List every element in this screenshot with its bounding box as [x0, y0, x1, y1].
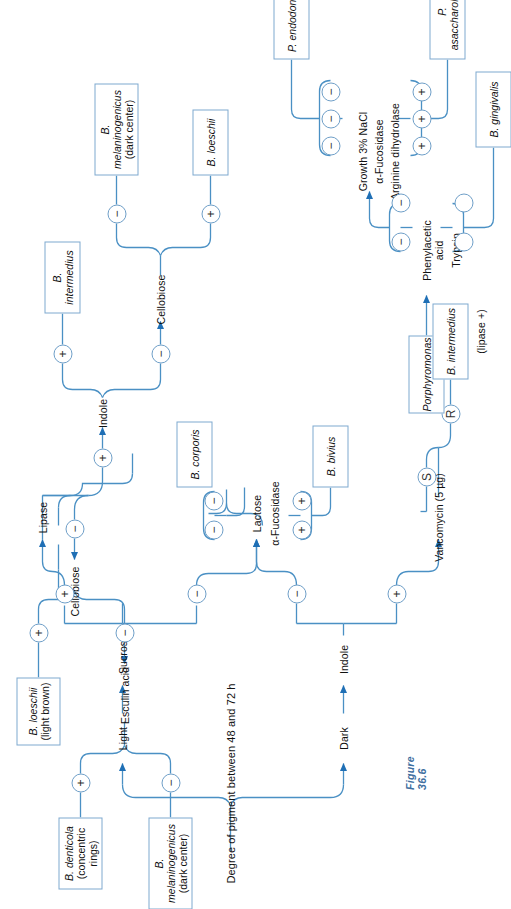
- test-phenylacetic-acid-label2: acid: [432, 240, 444, 260]
- node-esculin-plus[interactable]: +: [71, 773, 90, 792]
- organism-note: (dark center): [122, 99, 134, 159]
- organism-name: B. loeschii: [26, 687, 38, 735]
- organism-name: B. intermedius: [50, 245, 74, 309]
- organism-name: Porphyromonas: [420, 337, 432, 411]
- node-lipase-plus[interactable]: +: [93, 448, 112, 467]
- test-indole-b-label: Indole: [337, 644, 349, 673]
- test-lipase-label: Lipase: [36, 501, 48, 533]
- node-asaccharolyticus-nacl[interactable]: +: [412, 136, 431, 155]
- node-endodontalis-nacl[interactable]: −: [321, 136, 340, 155]
- test-vancomycin-label: Vancomycin (5 µg): [432, 473, 444, 562]
- organism-box-gingivalis[interactable]: B. gingivalis: [475, 71, 511, 147]
- test-fucosidase-label: α-Fucosidase: [268, 481, 280, 545]
- organism-name: B. denticola: [62, 826, 74, 881]
- node-bivius-lactose-plus[interactable]: +: [292, 520, 311, 539]
- test-indole-a-label: Indole: [96, 398, 108, 427]
- node-corporis-lactose-minus[interactable]: −: [204, 520, 223, 539]
- test-growth-nacl-label: Growth 3% NaCl: [356, 111, 368, 191]
- node-indole-b-plus[interactable]: +: [387, 584, 406, 603]
- node-lipase-minus[interactable]: −: [65, 519, 84, 538]
- node-cellobiose-b-minus[interactable]: −: [107, 204, 126, 223]
- node-endodontalis-arginine[interactable]: −: [321, 82, 340, 101]
- node-vancomycin-sensitive[interactable]: S: [417, 467, 436, 486]
- organism-box-bivius[interactable]: B. bivius: [312, 425, 348, 487]
- test-lactose-label: Lactose: [250, 494, 262, 531]
- organism-box-loeschii-light-brown[interactable]: B. loeschii (light brown): [16, 677, 60, 745]
- organism-name-loeschii: B. loeschii: [204, 118, 216, 166]
- node-indole-b-minus[interactable]: −: [287, 584, 306, 603]
- organism-note: (dark center): [176, 833, 188, 893]
- test-phenylacetic-acid-label: Phenylacetic: [420, 220, 432, 281]
- node-esculin-minus[interactable]: −: [161, 773, 180, 792]
- organism-box-loeschii[interactable]: B. loeschii: [192, 109, 228, 175]
- organism-name: P. endodontalis: [285, 0, 297, 52]
- test-esculin-acid-label: Esculin acid: [118, 666, 130, 723]
- organism-name: B. corporis: [188, 429, 200, 479]
- node-asaccharolyticus-arginine[interactable]: +: [412, 82, 431, 101]
- node-indole-a-plus[interactable]: +: [53, 344, 72, 363]
- organism-name: B. gingivalis: [487, 81, 499, 137]
- organism-intermedius-lipase-note: (lipase +): [474, 309, 486, 353]
- organism-name: P. asaccharolyticus: [435, 0, 459, 55]
- node-bivius-fucosidase-plus[interactable]: +: [292, 491, 311, 510]
- test-cellobiose-b-label: Cellobiose: [154, 274, 166, 324]
- test-arginine-dihydrolase-label: Arginine dihydrolase: [388, 102, 400, 199]
- organism-name: B. bivius: [324, 436, 336, 476]
- figure-caption: Figure 36.6: [404, 734, 428, 790]
- organism-box-endodontalis[interactable]: P. endodontalis: [273, 0, 309, 59]
- node-trypsin-minus[interactable]: −: [391, 193, 410, 212]
- organism-box-intermedius-lipase[interactable]: B. intermedius: [432, 303, 468, 379]
- organism-name: B. melaninogenicus: [152, 821, 176, 905]
- organism-name: B. melaninogenicus: [98, 87, 122, 171]
- organism-note: (light brown): [38, 682, 50, 740]
- organism-box-denticola[interactable]: B. denticola (concentric rings): [58, 817, 102, 889]
- organism-box-asaccharolyticus[interactable]: P. asaccharolyticus: [429, 0, 465, 59]
- node-corporis-fucosidase-minus[interactable]: −: [204, 491, 223, 510]
- test-fucosidase-2-label: α-Fucosidase: [372, 119, 384, 183]
- organism-name: B. intermedius: [444, 307, 456, 374]
- node-endodontalis-fucosidase[interactable]: −: [321, 109, 340, 128]
- node-gingivalis-phenylacetic[interactable]: [454, 232, 473, 251]
- organism-box-melaninogenicus-dark-2[interactable]: B. melaninogenicus (dark center): [94, 83, 138, 175]
- organism-box-melaninogenicus-dark-1[interactable]: B. melaninogenicus (dark center): [148, 817, 192, 909]
- node-asaccharolyticus-fucosidase[interactable]: +: [412, 109, 431, 128]
- organism-note: (concentric rings): [74, 821, 98, 885]
- node-sucrose-plus[interactable]: +: [55, 584, 74, 603]
- root-label: Degree of pigment between 48 and 72 h: [224, 683, 236, 883]
- branch-light-label: Light: [116, 726, 128, 749]
- node-phenylacetic-minus[interactable]: −: [391, 232, 410, 251]
- node-cellobiose-a-plus[interactable]: +: [29, 623, 48, 642]
- node-indole-a-minus[interactable]: −: [151, 344, 170, 363]
- organism-box-intermedius-top[interactable]: B. intermedius: [44, 241, 80, 313]
- node-cellobiose-a-minus[interactable]: −: [115, 623, 134, 642]
- node-gingivalis-trypsin[interactable]: [454, 193, 473, 212]
- branch-dark-label: Dark: [337, 727, 349, 750]
- organism-box-corporis[interactable]: B. corporis: [176, 421, 212, 487]
- node-sucrose-minus[interactable]: −: [187, 584, 206, 603]
- node-cellobiose-b-plus[interactable]: +: [201, 204, 220, 223]
